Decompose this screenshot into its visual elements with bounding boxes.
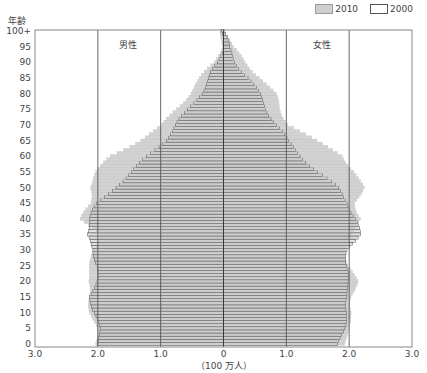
y-tick-label: 90 bbox=[20, 57, 32, 67]
bar-2000-male bbox=[96, 283, 224, 286]
bar-2000-female bbox=[224, 158, 303, 161]
bar-2000-male bbox=[93, 308, 224, 311]
bar-2000-male bbox=[94, 311, 223, 314]
bar-2000-male bbox=[188, 108, 224, 111]
bar-2000-male bbox=[90, 214, 223, 217]
x-tick-label: 2.0 bbox=[342, 349, 357, 359]
y-tick-label: 45 bbox=[20, 198, 31, 208]
bar-2000-female bbox=[224, 183, 336, 186]
y-tick-label: 10 bbox=[20, 308, 32, 318]
bar-2000-female bbox=[224, 83, 254, 86]
bar-2000-female bbox=[224, 317, 347, 320]
bar-2000-female bbox=[224, 314, 347, 317]
bar-2000-female bbox=[224, 177, 328, 180]
y-tick-label: 85 bbox=[20, 73, 31, 83]
bar-2000-male bbox=[202, 92, 223, 95]
bar-2000-female bbox=[224, 45, 230, 48]
y-tick-label: 15 bbox=[20, 292, 31, 302]
bar-2000-female bbox=[224, 101, 264, 104]
bar-2000-female bbox=[224, 186, 339, 189]
bar-2000-female bbox=[224, 252, 347, 255]
bar-2000-female bbox=[224, 249, 347, 252]
bar-2000-female bbox=[224, 302, 346, 305]
bar-2000-female bbox=[224, 214, 354, 217]
bar-2000-male bbox=[88, 233, 224, 236]
bar-2000-male bbox=[91, 292, 223, 295]
bar-2000-female bbox=[224, 227, 360, 230]
bar-2000-male bbox=[204, 89, 224, 92]
bar-2000-female bbox=[224, 114, 269, 117]
y-tick-label: 55 bbox=[20, 167, 31, 177]
bar-2000-female bbox=[224, 145, 294, 148]
bars-layer bbox=[80, 29, 364, 345]
y-tick-label: 40 bbox=[20, 214, 32, 224]
bar-2000-male bbox=[169, 136, 224, 139]
x-tick-label: 3.0 bbox=[405, 349, 420, 359]
bar-2000-female bbox=[224, 89, 259, 92]
bar-2000-female bbox=[224, 64, 237, 67]
bar-2000-male bbox=[100, 330, 224, 333]
bar-2000-female bbox=[224, 139, 289, 142]
bar-2000-male bbox=[134, 167, 224, 170]
bar-2000-male bbox=[163, 142, 224, 145]
bar-2000-female bbox=[224, 189, 341, 192]
bar-2000-male bbox=[184, 111, 223, 114]
bar-2000-male bbox=[209, 73, 223, 76]
bar-2000-male bbox=[90, 223, 224, 226]
bar-2000-female bbox=[224, 136, 287, 139]
bar-2000-female bbox=[224, 67, 239, 70]
bar-2000-male bbox=[197, 98, 224, 101]
bar-2000-female bbox=[224, 133, 285, 136]
bar-2000-male bbox=[171, 133, 224, 136]
bar-2000-female bbox=[224, 142, 292, 145]
bar-2000-female bbox=[224, 311, 347, 314]
bar-2000-male bbox=[151, 152, 224, 155]
bar-2000-female bbox=[224, 58, 234, 61]
bar-2000-female bbox=[224, 336, 341, 339]
bar-2000-male bbox=[93, 289, 224, 292]
x-tick-label: 1.0 bbox=[154, 349, 169, 359]
bar-2000-female bbox=[224, 111, 267, 114]
bar-2000-female bbox=[224, 202, 348, 205]
bar-2000-male bbox=[139, 161, 223, 164]
bar-2000-male bbox=[126, 177, 224, 180]
bar-2000-male bbox=[211, 70, 224, 73]
bar-2000-male bbox=[99, 333, 223, 336]
bar-2000-male bbox=[92, 208, 223, 211]
y-tick-label: 25 bbox=[20, 261, 31, 271]
bar-2000-female bbox=[224, 220, 358, 223]
bar-2000-female bbox=[224, 264, 347, 267]
bar-2000-female bbox=[224, 120, 274, 123]
bar-2000-female bbox=[224, 289, 348, 292]
bar-2000-female bbox=[224, 42, 230, 45]
bar-2000-male bbox=[200, 95, 224, 98]
bar-2000-male bbox=[93, 252, 224, 255]
bar-2000-female bbox=[224, 105, 265, 108]
bar-2000-male bbox=[94, 258, 223, 261]
bar-2000-male bbox=[172, 130, 223, 133]
bar-2000-female bbox=[224, 286, 348, 289]
bar-2000-female bbox=[224, 217, 356, 220]
bar-2000-male bbox=[147, 155, 224, 158]
bar-2000-male bbox=[174, 126, 224, 129]
bar-2000-female bbox=[224, 255, 346, 258]
bar-2000-male bbox=[175, 123, 223, 126]
bar-2000-male bbox=[94, 205, 223, 208]
bar-2000-male bbox=[96, 202, 223, 205]
bar-2000-male bbox=[123, 180, 223, 183]
bar-2000-male bbox=[90, 239, 223, 242]
bar-2000-female bbox=[224, 167, 314, 170]
bar-2000-female bbox=[224, 130, 283, 133]
y-tick-label: 20 bbox=[20, 276, 32, 286]
bar-2000-male bbox=[90, 217, 224, 220]
y-tick-label: 30 bbox=[20, 245, 32, 255]
bar-2000-male bbox=[112, 189, 223, 192]
bar-2000-female bbox=[224, 76, 249, 79]
bar-2000-female bbox=[224, 170, 318, 173]
bar-2000-female bbox=[224, 126, 280, 129]
bar-2000-male bbox=[90, 295, 224, 298]
bar-2000-male bbox=[90, 299, 224, 302]
bar-2000-male bbox=[219, 58, 223, 61]
bar-2000-female bbox=[224, 211, 352, 214]
bar-2000-male bbox=[207, 80, 223, 83]
